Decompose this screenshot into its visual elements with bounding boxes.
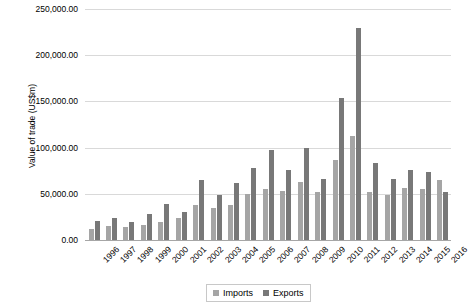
x-tick-label: 1997 (118, 245, 138, 265)
x-tick-label: 2014 (415, 245, 435, 265)
bar-exports-2015 (426, 172, 431, 240)
bar-group (383, 9, 400, 240)
bar-group (243, 9, 260, 240)
bar-imports-2010 (333, 160, 338, 240)
bar-exports-2010 (339, 98, 344, 240)
bar-imports-2016 (437, 180, 442, 240)
bar-exports-2007 (286, 170, 291, 240)
bar-exports-2006 (269, 150, 274, 240)
x-tick-label: 2001 (188, 245, 208, 265)
legend-item-exports: Exports (263, 288, 304, 298)
bar-group (435, 9, 452, 240)
bar-exports-2011 (356, 28, 361, 240)
bar-group (209, 9, 226, 240)
bar-exports-2016 (443, 192, 448, 240)
bar-exports-2014 (408, 170, 413, 240)
y-tick-label: 200,000.00 (0, 51, 78, 60)
x-tick-label: 1999 (153, 245, 173, 265)
bar-group (313, 9, 330, 240)
legend-label-imports: Imports (223, 288, 253, 298)
bar-imports-2001 (176, 218, 181, 240)
bar-group (348, 9, 365, 240)
y-tick-label: 150,000.00 (0, 97, 78, 106)
bar-group (139, 9, 156, 240)
x-tick-label: 2004 (240, 245, 260, 265)
axis-baseline (85, 240, 451, 241)
y-tick-label: 0.00 (0, 236, 78, 245)
x-tick-label: 2007 (293, 245, 313, 265)
x-tick-label: 2016 (450, 245, 469, 265)
bar-imports-1996 (89, 229, 94, 240)
bar-group (156, 9, 173, 240)
bar-group (261, 9, 278, 240)
y-tick-label: 50,000.00 (0, 190, 78, 199)
bar-group (296, 9, 313, 240)
x-tick-label: 2015 (432, 245, 452, 265)
bar-group (191, 9, 208, 240)
x-tick-label: 2003 (223, 245, 243, 265)
bar-imports-2004 (228, 205, 233, 240)
x-tick-label: 2006 (275, 245, 295, 265)
bar-group (365, 9, 382, 240)
bar-exports-2000 (164, 204, 169, 240)
bar-imports-1998 (123, 227, 128, 240)
legend-swatch-imports (213, 290, 219, 296)
bar-imports-1999 (141, 225, 146, 240)
bar-imports-2013 (385, 195, 390, 240)
bar-imports-2012 (367, 192, 372, 240)
legend-swatch-exports (263, 290, 269, 296)
bar-group (104, 9, 121, 240)
bar-exports-2008 (304, 148, 309, 240)
x-tick-label: 2009 (328, 245, 348, 265)
x-tick-label: 2002 (206, 245, 226, 265)
x-tick-label: 2000 (171, 245, 191, 265)
x-tick-label: 1998 (136, 245, 156, 265)
bar-exports-2001 (182, 212, 187, 240)
bar-imports-2005 (245, 194, 250, 240)
y-axis-title: Value of trade (US$m) (27, 39, 37, 214)
bar-group (226, 9, 243, 240)
x-tick-label: 2008 (310, 245, 330, 265)
bar-imports-1997 (106, 226, 111, 240)
bar-exports-1996 (95, 221, 100, 240)
legend-item-imports: Imports (213, 288, 253, 298)
x-tick-label: 2010 (345, 245, 365, 265)
bar-imports-2011 (350, 136, 355, 240)
bar-exports-2009 (321, 179, 326, 240)
bar-group (418, 9, 435, 240)
x-tick-label: 2013 (397, 245, 417, 265)
bar-group (87, 9, 104, 240)
bar-group (121, 9, 138, 240)
plot-area (85, 9, 451, 240)
bar-imports-2000 (158, 222, 163, 240)
legend-label-exports: Exports (273, 288, 304, 298)
bar-exports-2003 (217, 195, 222, 240)
bar-imports-2009 (315, 192, 320, 240)
x-tick-label: 1996 (101, 245, 121, 265)
bar-imports-2006 (263, 189, 268, 240)
bar-imports-2008 (298, 182, 303, 240)
bar-exports-1998 (129, 222, 134, 240)
x-tick-label: 2011 (362, 245, 381, 264)
bar-exports-2013 (391, 179, 396, 240)
y-tick-label: 250,000.00 (0, 5, 78, 14)
bar-imports-2002 (193, 205, 198, 240)
bar-imports-2007 (280, 191, 285, 240)
bar-exports-1999 (147, 214, 152, 240)
x-tick-label: 2005 (258, 245, 278, 265)
bar-exports-2002 (199, 180, 204, 240)
bar-group (278, 9, 295, 240)
bar-imports-2014 (402, 188, 407, 240)
bar-exports-2004 (234, 183, 239, 240)
chart-legend: Imports Exports (206, 284, 311, 302)
bar-exports-2005 (251, 168, 256, 240)
bar-group (331, 9, 348, 240)
bar-imports-2003 (211, 208, 216, 240)
bar-exports-2012 (373, 163, 378, 240)
x-tick-label: 2012 (380, 245, 400, 265)
bar-imports-2015 (420, 189, 425, 240)
bar-group (400, 9, 417, 240)
y-tick-label: 100,000.00 (0, 144, 78, 153)
bar-exports-1997 (112, 218, 117, 240)
